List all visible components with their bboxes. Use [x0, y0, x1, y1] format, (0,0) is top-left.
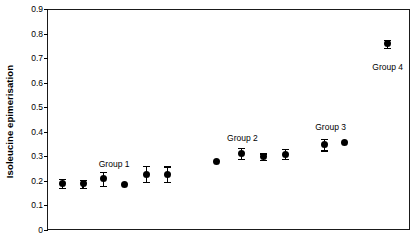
- data-point: [235, 147, 247, 159]
- group-label: Group 3: [315, 122, 346, 132]
- y-axis-tick-mark: [44, 107, 48, 108]
- y-axis-tick-label: 0.3: [17, 151, 43, 161]
- y-axis-tick-label: 0.2: [17, 176, 43, 186]
- data-point: [318, 139, 330, 151]
- y-axis-tick-mark: [44, 156, 48, 157]
- data-point: [118, 178, 130, 190]
- data-point-marker: [164, 171, 171, 178]
- y-axis-tick-label: 0.8: [17, 29, 43, 39]
- data-point: [279, 148, 291, 160]
- data-point-marker: [321, 141, 328, 148]
- data-point-marker: [143, 171, 150, 178]
- y-axis-tick-label: 0.5: [17, 102, 43, 112]
- error-bar-cap-upper: [100, 172, 107, 173]
- y-axis-tick-mark: [44, 9, 48, 10]
- data-point: [77, 178, 89, 190]
- y-axis-tick-mark: [44, 230, 48, 231]
- error-bar-cap-upper: [321, 139, 328, 140]
- error-bar-cap-lower: [164, 182, 171, 183]
- data-point-marker: [80, 180, 87, 187]
- data-point-marker: [59, 180, 66, 187]
- y-axis-tick-label: 0.4: [17, 127, 43, 137]
- y-axis-tick-mark: [44, 58, 48, 59]
- data-point-marker: [100, 175, 107, 182]
- data-point: [98, 173, 110, 185]
- data-point: [257, 151, 269, 163]
- error-bar-cap-lower: [143, 182, 150, 183]
- y-axis-tick-label: 0.1: [17, 200, 43, 210]
- data-point: [161, 168, 173, 180]
- error-bar-cap-lower: [80, 188, 87, 189]
- y-axis-tick-mark: [44, 34, 48, 35]
- y-axis-tick-labels: 00.10.20.30.40.50.60.70.80.9: [17, 0, 43, 243]
- error-bar-cap-lower: [384, 48, 391, 49]
- data-point-marker: [260, 153, 267, 160]
- plot-area: Group 1Group 2Group 3Group 4: [47, 9, 410, 230]
- group-label: Group 2: [227, 133, 258, 143]
- error-bar-cap-lower: [321, 150, 328, 151]
- data-point-marker: [238, 150, 245, 157]
- data-point: [339, 137, 351, 149]
- error-bar-cap-upper: [282, 149, 289, 150]
- y-axis-title: Isoleucine epimerisation: [0, 0, 18, 243]
- data-point-marker: [341, 139, 348, 146]
- error-bar-cap-lower: [282, 159, 289, 160]
- y-axis-tick-mark: [44, 132, 48, 133]
- error-bar-cap-lower: [238, 159, 245, 160]
- group-label: Group 4: [372, 62, 403, 72]
- data-point-marker: [121, 181, 128, 188]
- y-axis-tick-label: 0: [17, 225, 43, 235]
- error-bar-cap-upper: [143, 166, 150, 167]
- data-point: [141, 168, 153, 180]
- y-axis-tick-mark: [44, 83, 48, 84]
- y-axis-tick-label: 0.6: [17, 78, 43, 88]
- data-point-marker: [213, 158, 220, 165]
- y-axis-tick-label: 0.7: [17, 53, 43, 63]
- error-bar-cap-lower: [100, 186, 107, 187]
- error-bar-cap-upper: [238, 148, 245, 149]
- data-point: [382, 38, 394, 50]
- chart-figure: Isoleucine epimerisation 00.10.20.30.40.…: [0, 0, 420, 243]
- data-point-marker: [384, 40, 391, 47]
- data-point: [211, 156, 223, 168]
- y-axis-tick-mark: [44, 181, 48, 182]
- data-point: [56, 178, 68, 190]
- error-bar-cap-lower: [59, 188, 66, 189]
- error-bar-cap-upper: [164, 166, 171, 167]
- group-label: Group 1: [99, 159, 130, 169]
- y-axis-tick-mark: [44, 205, 48, 206]
- y-axis-tick-label: 0.9: [17, 4, 43, 14]
- data-point-marker: [282, 151, 289, 158]
